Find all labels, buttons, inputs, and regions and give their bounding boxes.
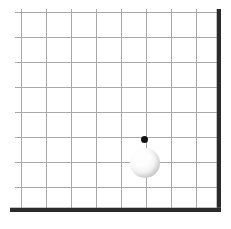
gridline-horizontal bbox=[15, 37, 219, 38]
gridline-horizontal bbox=[15, 12, 219, 13]
gridline-horizontal bbox=[15, 87, 219, 88]
gridline-horizontal bbox=[15, 62, 219, 63]
gridline-horizontal bbox=[15, 162, 219, 163]
gridline-vertical bbox=[96, 9, 97, 209]
gridline-vertical bbox=[171, 9, 172, 209]
gridline-vertical bbox=[46, 9, 47, 209]
gridline-vertical bbox=[71, 9, 72, 209]
gridline-horizontal bbox=[15, 137, 219, 138]
gridline-vertical bbox=[21, 9, 22, 209]
physics-scene bbox=[0, 0, 231, 229]
gridline-horizontal bbox=[15, 112, 219, 113]
gridline-vertical bbox=[146, 9, 147, 209]
ground-line bbox=[10, 208, 221, 212]
gridline-horizontal bbox=[15, 187, 219, 188]
pendulum-bob bbox=[130, 148, 160, 178]
gridline-vertical bbox=[196, 9, 197, 209]
pivot-point-marker bbox=[141, 136, 148, 143]
grid bbox=[0, 0, 231, 229]
gridline-vertical bbox=[121, 9, 122, 209]
right-wall bbox=[217, 9, 221, 212]
